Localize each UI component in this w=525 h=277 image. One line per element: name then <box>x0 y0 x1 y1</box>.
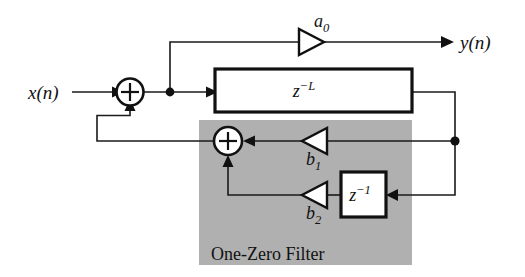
block-unit-delay-base: z <box>348 185 356 205</box>
diagram-canvas: z−L z−1 <box>0 0 525 277</box>
one-zero-filter-caption: One-Zero Filter <box>211 244 324 264</box>
block-delay-line-base: z <box>292 81 300 101</box>
gain-b1-label-base: b <box>306 149 315 169</box>
block-diagram-figure: z−L z−1 <box>0 0 525 277</box>
wire-gain-a0-to-output <box>323 36 454 48</box>
block-delay-line-exponent: −L <box>300 79 315 93</box>
adder-feedback[interactable] <box>214 127 242 155</box>
output-signal-label: y(n) <box>458 32 491 54</box>
gain-a0[interactable] <box>299 29 324 55</box>
wire-feedback-to-input-adder <box>97 99 214 141</box>
gain-a0-label-subscript: 0 <box>323 21 330 35</box>
gain-b2-label-subscript: 2 <box>315 213 321 227</box>
gain-b2-label-base: b <box>306 203 315 223</box>
gain-a0-label-base: a <box>314 11 323 31</box>
block-unit-delay[interactable]: z−1 <box>341 172 386 217</box>
node-forward-tap <box>166 88 175 97</box>
node-delay-output-tap <box>450 136 459 145</box>
wire-adder-to-delayline <box>144 87 219 98</box>
block-delay-line[interactable]: z−L <box>215 69 412 112</box>
block-unit-delay-exponent: −1 <box>356 183 371 197</box>
input-signal-label: x(n) <box>27 82 59 104</box>
gain-b1-label-subscript: 1 <box>315 159 321 173</box>
gain-a0-label: a0 <box>314 11 330 35</box>
adder-input[interactable] <box>117 79 144 106</box>
wire-delayline-output-rail <box>412 92 455 141</box>
